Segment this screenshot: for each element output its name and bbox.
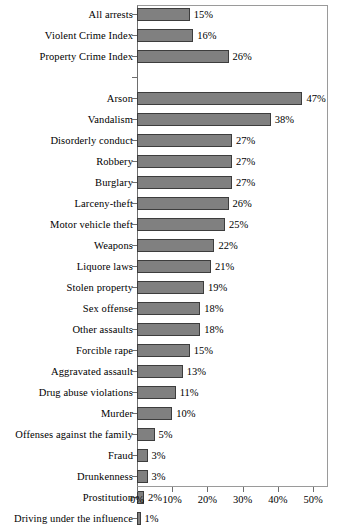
bar [137, 92, 302, 105]
category-label: Murder [0, 403, 133, 424]
bar [137, 449, 148, 462]
category-label: Burglary [0, 172, 133, 193]
x-axis-tick [243, 487, 244, 492]
category-label: Larceny-theft [0, 193, 133, 214]
category-label: Motor vehicle theft [0, 214, 133, 235]
category-label: Aggravated assault [0, 361, 133, 382]
bar-row: Aggravated assault13% [0, 361, 350, 382]
category-label: Vandalism [0, 109, 133, 130]
category-label [0, 67, 133, 88]
bar-value-label: 3% [152, 445, 166, 466]
bar-row: Fraud3% [0, 445, 350, 466]
category-label: Property Crime Index [0, 46, 133, 67]
category-label: Other assaults [0, 319, 133, 340]
bar-value-label: 3% [152, 466, 166, 487]
bar [137, 281, 204, 294]
bar-value-label: 15% [194, 340, 213, 361]
bar-value-label: 47% [306, 88, 325, 109]
category-label: Robbery [0, 151, 133, 172]
bar [137, 8, 190, 21]
bar [137, 113, 271, 126]
bar-row: Arson47% [0, 88, 350, 109]
category-label: Stolen property [0, 277, 133, 298]
x-axis-tick-label: 20% [187, 494, 227, 505]
category-label: Driving under the influence [0, 508, 133, 529]
bar-value-label: 18% [204, 298, 223, 319]
bar-value-label: 38% [275, 109, 294, 130]
bar-row: Driving under the influence1% [0, 508, 350, 529]
bar [137, 365, 183, 378]
x-axis-tick [137, 487, 138, 492]
bar-value-label: 1% [145, 508, 159, 529]
category-label: Disorderly conduct [0, 130, 133, 151]
category-label: All arrests [0, 4, 133, 25]
bar [137, 134, 232, 147]
bar [137, 344, 190, 357]
bar-row: Weapons22% [0, 235, 350, 256]
x-axis-tick-label: 0% [117, 494, 157, 505]
bar-row: Liquore laws21% [0, 256, 350, 277]
bar [137, 323, 200, 336]
bar [137, 176, 232, 189]
bar-value-label: 27% [236, 172, 255, 193]
category-label: Forcible rape [0, 340, 133, 361]
category-label: Drunkenness [0, 466, 133, 487]
bar [137, 197, 229, 210]
category-label: Weapons [0, 235, 133, 256]
category-label: Prostitution [0, 487, 133, 508]
bar-row: Vandalism38% [0, 109, 350, 130]
bar [137, 512, 141, 525]
bar-row: All arrests15% [0, 4, 350, 25]
bar [137, 407, 172, 420]
x-axis-tick-label: 30% [223, 494, 263, 505]
bar [137, 155, 232, 168]
bar [137, 428, 155, 441]
bar-row: Larceny-theft26% [0, 193, 350, 214]
bar-value-label: 27% [236, 130, 255, 151]
bar-value-label: 16% [197, 25, 216, 46]
bar [137, 50, 229, 63]
bar-row: Sex offense18% [0, 298, 350, 319]
x-axis-tick-label: 10% [152, 494, 192, 505]
bar-row: Other assaults18% [0, 319, 350, 340]
bar-row: Drunkenness3% [0, 466, 350, 487]
bar-row: Murder10% [0, 403, 350, 424]
x-axis-tick [278, 487, 279, 492]
bar [137, 302, 200, 315]
category-label: Liquore laws [0, 256, 133, 277]
bar-row: Offenses against the family5% [0, 424, 350, 445]
bar-value-label: 27% [236, 151, 255, 172]
bar [137, 386, 176, 399]
category-label: Fraud [0, 445, 133, 466]
bar-row: Violent Crime Index16% [0, 25, 350, 46]
bar-row: Motor vehicle theft25% [0, 214, 350, 235]
category-label: Drug abuse violations [0, 382, 133, 403]
x-axis-tick-label: 40% [258, 494, 298, 505]
bar-row: Drug abuse violations11% [0, 382, 350, 403]
bar-value-label: 18% [204, 319, 223, 340]
bar-value-label: 26% [233, 193, 252, 214]
bar-value-label: 5% [159, 424, 173, 445]
bar [137, 260, 211, 273]
bar-row: Forcible rape15% [0, 340, 350, 361]
bar-value-label: 21% [215, 256, 234, 277]
bar-row [0, 67, 350, 88]
x-axis-tick [313, 487, 314, 492]
bar-row: Robbery27% [0, 151, 350, 172]
bar-value-label: 13% [187, 361, 206, 382]
bar-value-label: 10% [176, 403, 195, 424]
bar-value-label: 15% [194, 4, 213, 25]
x-axis-tick-label: 50% [293, 494, 333, 505]
bar-row: Stolen property19% [0, 277, 350, 298]
bar-row: Disorderly conduct27% [0, 130, 350, 151]
bar-row: Property Crime Index26% [0, 46, 350, 67]
x-axis-tick [207, 487, 208, 492]
bar [137, 470, 148, 483]
bar [137, 218, 225, 231]
bar [137, 239, 214, 252]
bar-value-label: 22% [218, 235, 237, 256]
category-label: Arson [0, 88, 133, 109]
bar-value-label: 26% [233, 46, 252, 67]
